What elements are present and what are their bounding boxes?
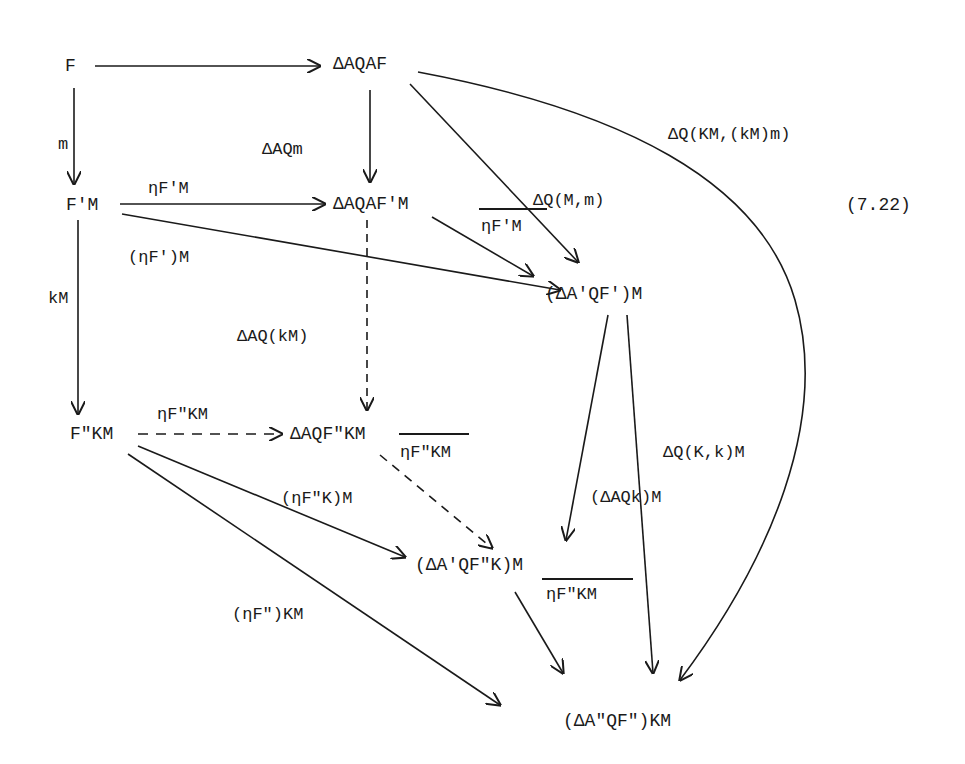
label-DAQk-M: (ΔAQk)M	[590, 489, 661, 506]
node-DAppQFppKM: (ΔA"QF")KM	[563, 712, 671, 730]
label-kM: kM	[48, 290, 68, 307]
label-DQ-KM-kMm: ΔQ(KM,(kM)m)	[668, 126, 790, 143]
node-DAQAFpM: ΔAQAF'M	[333, 195, 409, 213]
node-DApQFppKM: (ΔA'QF"K)M	[415, 556, 523, 574]
label-eta-FppK-M-bar: ηF"KM	[400, 444, 451, 461]
label-eta-Fpp-KM-bar: ηF"KM	[546, 586, 597, 603]
label-eta-Fp-M-paren: (ηF')M	[128, 249, 189, 266]
label-eta-Fp-M-bar: ηF'M	[481, 218, 522, 235]
node-FpM: F'M	[66, 196, 98, 214]
node-DApQFpM: (ΔA'QF')M	[545, 285, 642, 303]
arrow-eta-Fpp-KM-bar	[515, 592, 563, 673]
label-eta-FpM: ηF'M	[148, 180, 189, 197]
arrow-eta-FppK-M-paren	[138, 446, 405, 557]
arrow-eta-FppK-M-bar	[380, 455, 492, 548]
commutative-diagram	[0, 0, 965, 764]
node-F: F	[65, 57, 76, 75]
equation-number: (7.22)	[846, 196, 911, 214]
node-DAQFppKM: ΔAQF"KM	[290, 425, 366, 443]
label-DQ-Kk-M: ΔQ(K,k)M	[663, 444, 745, 461]
arrow-DQ-KM-kMm	[418, 72, 805, 680]
node-DAQAF: ΔAQAF	[333, 55, 387, 73]
label-eta-FppK-M-paren: (ηF"K)M	[281, 490, 352, 507]
label-DQ-M-m: ΔQ(M,m)	[533, 192, 604, 209]
label-eta-FppKM: ηF"KM	[157, 406, 208, 423]
node-FppKM: F"KM	[70, 425, 113, 443]
label-DAQ-kM: ΔAQ(kM)	[237, 328, 308, 345]
label-eta-Fpp-KM-paren: (ηF")KM	[232, 606, 303, 623]
label-m: m	[58, 136, 68, 153]
label-DAQm: ΔAQm	[262, 141, 303, 158]
